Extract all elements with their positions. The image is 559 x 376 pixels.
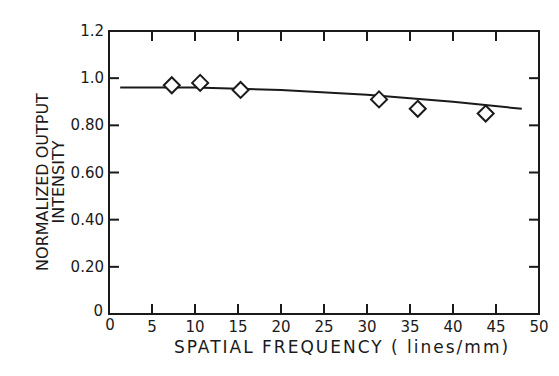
y-tick-label: 0.20 <box>71 258 104 276</box>
y-axis-title: NORMALIZED OUTPUT INTENSITY <box>33 93 68 271</box>
diamond-marker <box>371 91 387 107</box>
x-tick-label: 50 <box>529 318 548 336</box>
x-tick-label: 25 <box>314 318 333 336</box>
y-tick-label: 0.60 <box>71 164 104 182</box>
x-tick-label: 0 <box>105 316 115 334</box>
fit-curve <box>120 88 522 109</box>
y-tick-label: 0.80 <box>71 116 104 134</box>
x-axis-title: SPATIAL FREQUENCY ( lines/mm) <box>174 337 510 357</box>
y-tick-label: 1.0 <box>80 69 104 87</box>
y-axis-title-line-2: INTENSITY <box>49 140 68 223</box>
x-tick-label: 40 <box>443 318 462 336</box>
diamond-marker <box>164 77 180 93</box>
y-tick-label: 0 <box>93 302 103 320</box>
diamond-marker <box>478 106 494 122</box>
x-tick-label: 20 <box>271 318 290 336</box>
chart: 05101520253035404550 00.200.400.600.801.… <box>0 0 559 376</box>
x-tick-label: 35 <box>400 318 419 336</box>
diamond-marker <box>410 101 426 117</box>
y-tick-label: 1.2 <box>80 22 104 40</box>
x-tick-label: 5 <box>147 318 157 336</box>
y-axis-ticks: 00.200.400.600.801.01.2 <box>71 22 539 320</box>
y-tick-label: 0.40 <box>71 211 104 229</box>
x-tick-label: 15 <box>228 318 247 336</box>
data-markers <box>164 75 494 122</box>
x-tick-label: 10 <box>185 318 204 336</box>
diamond-marker <box>233 82 249 98</box>
fit-line <box>120 88 522 109</box>
x-tick-label: 45 <box>486 318 505 336</box>
plot-frame <box>109 31 539 314</box>
x-tick-label: 30 <box>357 318 376 336</box>
